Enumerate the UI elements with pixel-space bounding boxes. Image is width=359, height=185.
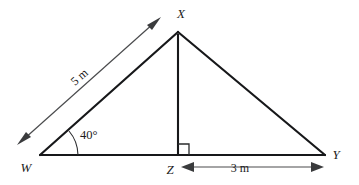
vertex-label-x: X: [176, 6, 186, 21]
geometry-diagram-canvas: W X Y Z 40° 5 m 3 m: [0, 0, 359, 185]
angle-label-w: 40°: [80, 128, 98, 142]
dimension-wx-line: [24, 23, 154, 139]
dimension-wx: [17, 17, 161, 145]
vertex-label-y: Y: [332, 147, 341, 162]
dimension-zy-arrowhead-end: [311, 162, 324, 172]
edge-xy: [178, 32, 325, 155]
dimension-zy: [181, 162, 324, 172]
vertex-label-z: Z: [166, 162, 174, 177]
edge-wx: [40, 32, 178, 155]
triangle-diagram-svg: W X Y Z 40° 5 m 3 m: [0, 0, 359, 185]
measure-label-zy: 3 m: [231, 161, 250, 175]
right-angle-icon: [178, 144, 189, 155]
dimension-zy-arrowhead-start: [181, 162, 194, 172]
vertex-label-w: W: [21, 160, 33, 175]
angle-arc-w: [69, 131, 78, 155]
measure-label-wx: 5 m: [68, 65, 92, 88]
